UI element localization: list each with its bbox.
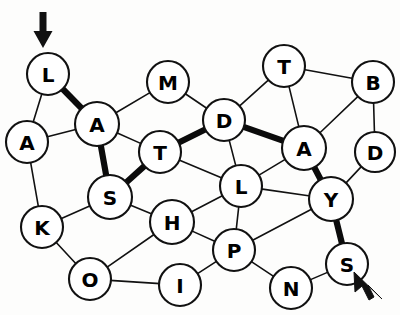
node-l2[interactable]: L: [220, 165, 262, 207]
node-circle[interactable]: [27, 53, 69, 95]
node-n1[interactable]: N: [270, 267, 312, 309]
edge-A-K: [30, 162, 38, 208]
letter-graph[interactable]: LAAMTDTBADSLYKHPSOIN: [0, 0, 400, 315]
edge-B-A: [319, 96, 358, 134]
node-a1[interactable]: A: [6, 121, 48, 163]
edge-T-B: [304, 70, 354, 79]
node-circle[interactable]: [6, 121, 48, 163]
node-d2[interactable]: D: [355, 132, 395, 172]
edge-Y-P: [252, 209, 313, 241]
node-circle[interactable]: [270, 267, 312, 309]
node-m1[interactable]: M: [147, 61, 189, 103]
edge-S-H: [129, 205, 152, 214]
node-layer[interactable]: LAAMTDTBADSLYKHPSOIN: [6, 45, 395, 309]
node-t2[interactable]: T: [263, 45, 305, 87]
node-circle[interactable]: [88, 175, 132, 219]
edge-L-A: [33, 93, 42, 123]
node-circle[interactable]: [139, 131, 181, 173]
edge-D-L: [229, 139, 236, 166]
node-circle[interactable]: [309, 177, 353, 221]
node-circle[interactable]: [352, 61, 394, 103]
node-circle[interactable]: [69, 258, 111, 300]
edge-O-I: [110, 280, 160, 283]
node-y1[interactable]: Y: [309, 177, 353, 221]
node-s2[interactable]: S: [326, 243, 368, 285]
node-circle[interactable]: [75, 102, 119, 146]
edge-T-A: [289, 85, 299, 127]
node-l1[interactable]: L: [27, 53, 69, 95]
node-p1[interactable]: P: [213, 229, 255, 271]
node-h1[interactable]: H: [150, 200, 194, 244]
node-circle[interactable]: [282, 126, 326, 170]
node-circle[interactable]: [147, 61, 189, 103]
edge-N-S: [309, 272, 328, 280]
edge-L-P: [236, 206, 239, 230]
node-circle[interactable]: [220, 165, 262, 207]
node-s1[interactable]: S: [88, 175, 132, 219]
edge-A-A: [46, 129, 76, 137]
edge-D-A: [243, 127, 284, 141]
node-circle[interactable]: [21, 206, 63, 248]
edge-H-L: [191, 195, 224, 212]
edge-layer-thin: [30, 70, 374, 284]
edge-A-T: [116, 133, 142, 144]
edge-L-Y: [261, 189, 310, 196]
node-circle[interactable]: [326, 243, 368, 285]
node-circle[interactable]: [213, 229, 255, 271]
edge-H-O: [106, 234, 154, 268]
edge-B-D: [374, 102, 375, 133]
node-circle[interactable]: [150, 200, 194, 244]
edge-A-S: [101, 145, 107, 177]
edge-K-O: [56, 242, 77, 265]
edge-T-S: [126, 165, 146, 183]
node-o1[interactable]: O: [69, 258, 111, 300]
edge-D-T: [239, 79, 269, 106]
node-a2[interactable]: A: [75, 102, 119, 146]
node-circle[interactable]: [159, 264, 201, 306]
node-k1[interactable]: K: [21, 206, 63, 248]
node-circle[interactable]: [203, 99, 245, 141]
edge-D-Y: [345, 166, 362, 184]
node-a3[interactable]: A: [282, 126, 326, 170]
node-d1[interactable]: D: [203, 99, 245, 141]
edge-A-Y: [314, 167, 321, 181]
edge-A-M: [115, 92, 151, 113]
puzzle-canvas: LAAMTDTBADSLYKHPSOIN LASTDAYS: [0, 0, 400, 315]
node-b1[interactable]: B: [352, 61, 394, 103]
edge-P-I: [197, 261, 217, 274]
node-i1[interactable]: I: [159, 264, 201, 306]
end-cursor: [354, 272, 382, 300]
node-circle[interactable]: [355, 132, 395, 172]
edge-S-K: [60, 205, 90, 218]
node-circle[interactable]: [263, 45, 305, 87]
edge-T-D: [178, 129, 206, 143]
edge-Y-S: [336, 219, 342, 244]
edge-P-N: [251, 261, 275, 277]
edge-A-L: [258, 159, 286, 176]
edge-T-L: [178, 160, 222, 179]
start-arrow: [34, 12, 53, 48]
edge-M-D: [185, 93, 208, 109]
edge-H-P: [191, 231, 216, 242]
edge-L-A: [62, 88, 82, 109]
node-t1[interactable]: T: [139, 131, 181, 173]
